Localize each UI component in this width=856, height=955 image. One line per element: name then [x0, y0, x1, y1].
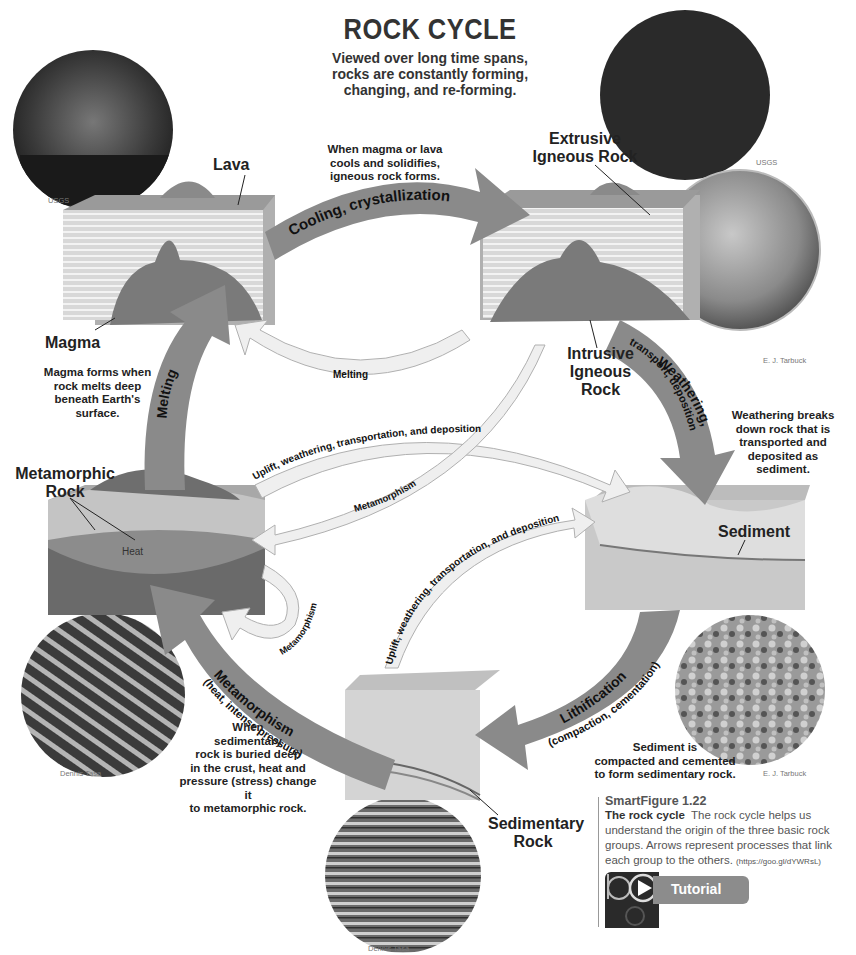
photo-credit: USGS	[756, 158, 777, 167]
sediment-label: Sediment	[718, 523, 790, 541]
canyon-photo	[325, 797, 481, 953]
uplift-lower-arrow	[385, 508, 595, 668]
melting-return-label: Melting	[333, 369, 368, 380]
lithification-note: Sediment iscompacted and cementedto form…	[590, 741, 740, 782]
figure-caption: SmartFigure 1.22 The rock cycle The rock…	[605, 794, 850, 869]
tutorial-button[interactable]: Tutorial	[605, 872, 749, 928]
tutorial-label: Tutorial	[671, 881, 721, 897]
weathering-note: Weathering breaksdown rock that istransp…	[727, 409, 839, 477]
caption-link[interactable]: (https://goo.gl/dYWRsL)	[736, 857, 821, 866]
photo-credit: E. J. Tarbuck	[763, 356, 806, 365]
extrusive-igneous-rock-label: ExtrusiveIgneous Rock	[525, 130, 645, 166]
lava-label: Lava	[213, 156, 249, 174]
magma-note: Magma forms whenrock melts deepbeneath E…	[40, 366, 155, 420]
photo-credit: E. J. Tarbuck	[763, 769, 806, 778]
gneiss-photo	[21, 613, 185, 777]
page-title: ROCK CYCLE	[303, 12, 558, 46]
caption-title: The rock cycle	[605, 809, 685, 821]
bp-logo-icon	[605, 872, 659, 928]
caption-rule	[598, 797, 599, 927]
metamorphism-note: Whensedimentaryrock is buried deepin the…	[178, 721, 318, 816]
photo-credit: Dennis Tasa	[368, 944, 409, 953]
intrusive-igneous-rock-label: IntrusiveIgneousRock	[563, 345, 638, 399]
photo-credit: USGS	[48, 196, 69, 205]
photo-credit: Dennis Tasa	[60, 769, 101, 778]
extrusive-igneous-block	[63, 182, 275, 326]
metamorphic-rock-label: MetamorphicRock	[15, 465, 115, 501]
cooling-note: When magma or lavacools and solidifies,i…	[320, 143, 450, 184]
magma-label: Magma	[45, 334, 100, 352]
heat-label: Heat	[122, 546, 143, 557]
sediment-block	[585, 485, 810, 610]
page-subtitle: Viewed over long time spans, rocks are c…	[290, 50, 570, 98]
melting-return-arrow	[235, 320, 470, 375]
sedimentary-rock-label: SedimentaryRock	[488, 815, 578, 851]
figure-number: SmartFigure 1.22	[605, 794, 850, 808]
